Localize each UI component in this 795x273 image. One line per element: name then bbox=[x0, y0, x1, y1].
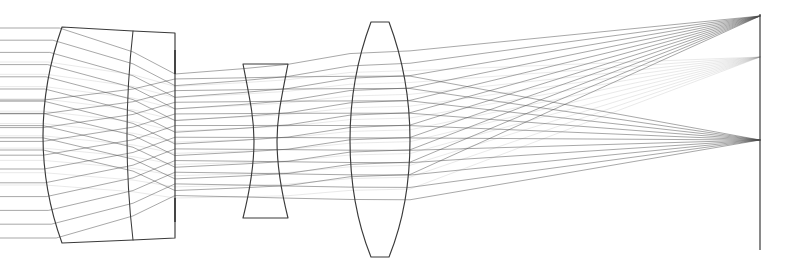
front-doublet-outline bbox=[43, 27, 175, 243]
ray-field-bundle-upper-1 bbox=[0, 16, 760, 86]
ray-field-bundle-middle-8 bbox=[0, 57, 760, 176]
ray-field-bundle-upper-5 bbox=[0, 16, 760, 132]
ray-field-bundle-axial-5 bbox=[0, 137, 760, 169]
ray-field-bundle-upper-10 bbox=[0, 16, 760, 191]
ray-field-bundle-axial-7 bbox=[0, 140, 760, 197]
negative-element-outline bbox=[243, 64, 288, 218]
ray-field-bundle-axial-6 bbox=[0, 140, 760, 183]
ray-field-bundle-middle-4 bbox=[0, 57, 760, 131]
optical-diagram-canvas bbox=[0, 0, 795, 273]
ray-field-bundle-middle-0 bbox=[0, 57, 760, 86]
ray-bundle-layer bbox=[0, 16, 760, 238]
ray-field-bundle-middle-5 bbox=[0, 57, 760, 142]
ray-field-bundle-upper-2 bbox=[0, 16, 760, 97]
ray-field-bundle-upper-7 bbox=[0, 16, 760, 156]
optical-ray-trace-figure bbox=[0, 0, 795, 273]
